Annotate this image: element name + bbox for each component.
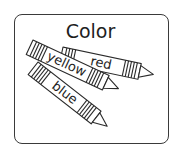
crayons-illustration: red blue yellow [0,0,181,150]
